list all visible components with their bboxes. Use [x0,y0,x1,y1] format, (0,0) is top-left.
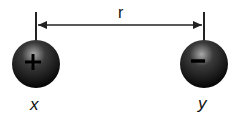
charge-x-label: x [30,96,39,113]
charge-y-sphere [180,40,228,88]
distance-label: r [118,5,123,21]
charge-x-sphere [12,40,60,88]
left-arrowhead-icon [38,21,47,29]
charge-y-label: y [198,95,207,112]
right-arrowhead-icon [193,21,202,29]
